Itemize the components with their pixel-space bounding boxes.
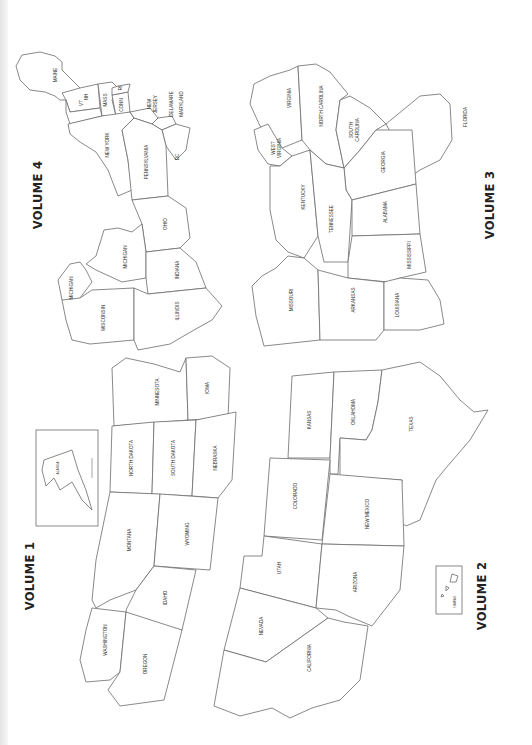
label-minnesota: MINNESOTA	[155, 378, 160, 406]
label-west: WEST	[271, 141, 276, 154]
label-michigan-lower: MICHIGAN	[123, 246, 128, 269]
label-new-york: NEW YORK	[105, 132, 110, 158]
label-louisiana: LOUISIANA	[395, 292, 400, 317]
volume-3-region: VIRGINIA WEST VIRGINIA NORTH CAROLINA SO…	[250, 64, 497, 346]
volume-1-title: VOLUME 1	[23, 542, 37, 610]
label-montana: MONTANA	[127, 528, 132, 552]
label-conn: CONN	[119, 98, 124, 112]
label-alaska: ALASKA	[56, 461, 60, 475]
label-wisconsin: WISCONSIN	[101, 305, 106, 332]
volume-4-title: VOLUME 4	[31, 161, 45, 229]
label-north-dakota: NORTH DAKOTA	[129, 439, 134, 476]
label-indiana: INDIANA	[175, 260, 180, 280]
state-minnesota	[112, 358, 188, 426]
hawaii-inset-frame	[436, 566, 462, 614]
label-maryland: MARYLAND	[179, 91, 184, 117]
label-ri: RI	[118, 86, 123, 91]
label-new: NEW	[147, 98, 152, 109]
state-louisiana	[384, 278, 444, 330]
label-dc: DC	[175, 153, 180, 160]
label-carolina: CAROLINA	[355, 117, 360, 141]
label-oklahoma: OKLAHOMA	[351, 398, 356, 425]
label-nh: NH	[84, 94, 89, 101]
state-missouri	[252, 256, 320, 346]
volume-1-region: ALASKA MINNESOTA IOWA NORTH DAKOTA SOUTH…	[23, 356, 237, 706]
label-kentucky: KENTUCKY	[301, 184, 306, 209]
label-north-carolina: NORTH CAROLINA	[319, 85, 324, 127]
volume-2-title: VOLUME 2	[475, 562, 489, 630]
label-georgia: GEORGIA	[381, 150, 386, 172]
label-michigan-upper: MICHIGAN	[69, 277, 74, 300]
label-mississippi: MISSISSIPPI	[407, 241, 412, 268]
label-arkansas: ARKANSAS	[351, 287, 356, 312]
state-kentucky	[270, 150, 318, 258]
state-alaska	[42, 450, 92, 510]
label-alabama: ALABAMA	[383, 200, 388, 223]
label-west-virginia: VIRGINIA	[277, 137, 282, 158]
label-wyoming: WYOMING	[185, 522, 190, 545]
volume-3-title: VOLUME 3	[483, 171, 497, 239]
label-florida: FLORIDA	[463, 106, 468, 127]
label-jersey: JERSEY	[153, 95, 158, 113]
state-mississippi	[348, 234, 426, 282]
state-arizona	[316, 544, 404, 626]
label-washington: WASHINGTON	[103, 624, 108, 655]
label-iowa: IOWA	[205, 381, 210, 394]
label-texas: TEXAS	[409, 416, 414, 431]
label-utah: UTAH	[277, 562, 282, 574]
label-south-dakota: SOUTH DAKOTA	[171, 439, 176, 476]
label-tennessee: TENNESSEE	[329, 205, 334, 233]
state-new-york	[68, 112, 134, 196]
label-delaware: DELAWARE	[169, 91, 174, 116]
label-arizona: ARIZONA	[353, 571, 358, 592]
volume-2-region: HAWAII KANSAS OKLAHOMA TEXAS COLORADO NE…	[214, 362, 489, 718]
label-ohio: OHIO	[163, 218, 168, 230]
label-idaho: IDAHO	[163, 590, 168, 605]
label-oregon: OREGON	[143, 654, 148, 674]
state-new-mexico	[322, 474, 404, 546]
label-virginia: VIRGINIA	[287, 87, 292, 108]
label-nevada: NEVADA	[259, 616, 264, 635]
state-hawaii	[441, 574, 458, 597]
label-hawaii: HAWAII	[453, 596, 457, 607]
label-nebraska: NEBRASKA	[213, 445, 218, 471]
label-new-mexico: NEW MEXICO	[365, 499, 370, 530]
state-michigan-lower	[86, 224, 146, 282]
label-south: SOUTH	[349, 122, 354, 138]
label-colorado: COLORADO	[293, 482, 298, 509]
label-illinois: ILLINOIS	[175, 302, 180, 321]
label-california: CALIFORNIA	[307, 643, 312, 672]
label-kansas: KANSAS	[307, 411, 312, 430]
us-volume-map: MAINE VT NH MASS CONN RI NEW YORK NEW JE…	[0, 0, 532, 745]
label-pennsylvania: PENNSYLVANIA	[144, 144, 149, 179]
label-maine: MAINE	[53, 68, 58, 83]
label-missouri: MISSOURI	[289, 289, 294, 312]
volume-4-region: MAINE VT NH MASS CONN RI NEW YORK NEW JE…	[16, 52, 222, 350]
label-mass: MASS	[103, 93, 108, 106]
